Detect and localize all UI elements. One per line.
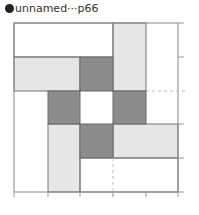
bottom-ticks <box>14 192 178 197</box>
dark-square-bottom <box>80 124 113 158</box>
dark-square-right <box>113 91 146 124</box>
light-bar-left <box>14 57 80 91</box>
dark-square-top <box>80 57 113 91</box>
light-bar-bottom <box>48 124 80 192</box>
block-background <box>14 23 178 192</box>
quilt-diagram <box>0 0 199 215</box>
dark-square-left <box>48 91 80 124</box>
light-bar-top <box>113 23 146 91</box>
right-ticks <box>178 23 184 192</box>
light-bar-right <box>113 124 178 158</box>
